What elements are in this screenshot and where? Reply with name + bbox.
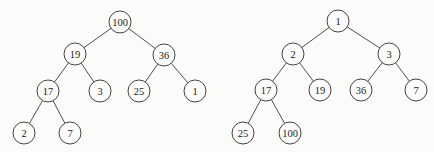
tree-edge (273, 63, 287, 81)
node-label: 19 (70, 49, 81, 60)
tree-edge (347, 27, 380, 48)
tree-node: 17 (255, 79, 277, 101)
tree-edge (53, 101, 65, 124)
tree-node: 3 (378, 43, 400, 65)
node-label: 17 (261, 85, 272, 96)
tree-node: 7 (405, 79, 427, 101)
heap-diagram-canvas: 100193617325127123171936725100 (0, 0, 434, 152)
tree-node: 17 (37, 80, 59, 102)
node-label: 25 (238, 128, 249, 139)
node-label: 100 (112, 17, 128, 28)
tree-edge (54, 63, 68, 82)
tree-edge (171, 63, 188, 82)
tree-nodes-min-heap: 123171936725100 (232, 10, 427, 144)
tree-node: 19 (309, 79, 331, 101)
tree-node: 100 (279, 122, 301, 144)
tree-edge (271, 100, 284, 124)
tree-node: 36 (350, 79, 372, 101)
node-label: 100 (282, 128, 298, 139)
tree-node: 2 (282, 43, 304, 65)
node-label: 3 (97, 86, 102, 97)
tree-edge (396, 63, 410, 81)
tree-node: 100 (109, 11, 131, 33)
binary-trees-svg: 100193617325127123171936725100 (0, 0, 434, 152)
node-label: 1 (192, 86, 197, 97)
edges-layer (29, 27, 409, 123)
node-label: 25 (134, 86, 145, 97)
tree-node: 36 (153, 44, 175, 66)
node-label: 1 (335, 16, 340, 27)
tree-edge (84, 28, 111, 47)
tree-edge (145, 64, 157, 82)
tree-node: 1 (327, 10, 349, 32)
tree-node: 3 (89, 80, 111, 102)
tree-edge (129, 29, 155, 49)
tree-edge (302, 28, 329, 48)
tree-node: 2 (13, 122, 35, 144)
tree-edge (368, 63, 382, 82)
node-label: 7 (413, 85, 418, 96)
node-label: 2 (21, 128, 26, 139)
nodes-layer: 100193617325127123171936725100 (13, 10, 427, 144)
tree-edge (29, 101, 42, 124)
tree-edge (300, 63, 314, 81)
node-label: 2 (290, 49, 295, 60)
node-label: 19 (315, 85, 326, 96)
tree-node: 1 (184, 80, 206, 102)
tree-nodes-max-heap: 100193617325127 (13, 11, 206, 144)
tree-edge (81, 63, 94, 82)
node-label: 3 (386, 49, 391, 60)
node-label: 7 (67, 128, 72, 139)
tree-node: 25 (232, 122, 254, 144)
tree-min-heap (248, 27, 409, 123)
node-label: 36 (159, 50, 170, 61)
tree-node: 7 (59, 122, 81, 144)
tree-max-heap (29, 28, 187, 123)
node-label: 17 (43, 86, 54, 97)
tree-edge (248, 100, 261, 124)
node-label: 36 (356, 85, 367, 96)
tree-node: 25 (128, 80, 150, 102)
tree-node: 19 (64, 43, 86, 65)
